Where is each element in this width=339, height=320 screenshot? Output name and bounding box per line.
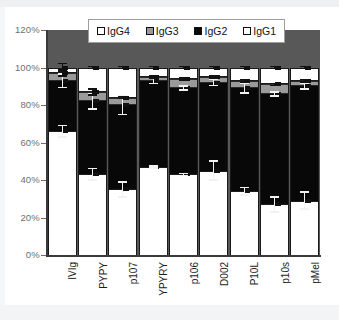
error-bar-marker <box>62 66 68 70</box>
y-axis-tick <box>41 68 46 69</box>
x-axis-label-p106: p106 <box>189 262 200 320</box>
error-bar-cap-bottom <box>300 88 309 90</box>
x-axis-label-p107: p107 <box>128 262 139 320</box>
error-bar-cap-bottom <box>240 68 249 70</box>
error-bar-marker <box>62 129 68 133</box>
error-bar-marker <box>93 172 99 176</box>
bar-segment-igg2 <box>109 105 136 189</box>
error-bar-stem <box>213 160 214 181</box>
bar-segment-igg2 <box>291 86 318 200</box>
error-bar-cap-bottom <box>270 85 279 87</box>
x-axis-label-text: pMel <box>310 262 321 320</box>
y-axis-tick <box>41 180 46 181</box>
error-bar-cap-bottom <box>88 94 97 96</box>
error-bar-cap-bottom <box>300 81 309 83</box>
x-axis-label-text: D002 <box>219 262 230 320</box>
legend-swatch-igg1 <box>243 27 251 35</box>
error-bar-cap-bottom <box>240 81 249 83</box>
error-bar-cap-bottom <box>300 208 309 210</box>
error-bar-cap-bottom <box>58 71 67 73</box>
error-bar-cap-top <box>58 125 67 127</box>
x-axis-label-text: P10L <box>249 262 260 320</box>
error-bar-cap-bottom <box>118 68 127 70</box>
error-bar-marker <box>123 103 129 107</box>
error-bar-cap-bottom <box>270 68 279 70</box>
y-axis-tick <box>41 218 46 219</box>
error-bar-cap-top <box>209 160 218 162</box>
x-axis-label-text: p107 <box>128 262 139 320</box>
error-bar-cap-top <box>209 79 218 81</box>
error-bar-cap-bottom <box>118 114 127 116</box>
y-axis-tick-label: 0% <box>0 249 40 260</box>
x-axis-label-p10l: P10L <box>249 262 260 320</box>
error-bar-cap-top <box>58 63 67 65</box>
y-axis-tick <box>41 30 46 31</box>
error-bar-cap-bottom <box>179 89 188 91</box>
x-axis-label-pmel: pMel <box>310 262 321 320</box>
x-axis-label-text: YPYRY <box>158 262 169 320</box>
y-axis-tick-label: 60% <box>0 137 40 148</box>
x-axis-label-text: p106 <box>189 262 200 320</box>
bar-p10l <box>230 68 259 256</box>
bar-segment-igg1 <box>109 189 136 255</box>
error-bar-marker <box>62 79 68 83</box>
error-bar-cap-bottom <box>209 179 218 181</box>
y-axis-tick-label: 100% <box>0 62 40 73</box>
error-bar-cap-top <box>88 88 97 90</box>
error-bar-cap-bottom <box>58 87 67 89</box>
legend-item-igg2[interactable]: IgG2 <box>194 25 227 37</box>
error-bar-cap-bottom <box>179 68 188 70</box>
legend-label: IgG1 <box>253 25 276 37</box>
x-axis-label-text: IVIg <box>67 262 78 320</box>
error-bar-cap-bottom <box>209 85 218 87</box>
error-bar-cap-top <box>179 85 188 87</box>
error-bar-cap-top <box>270 196 279 198</box>
error-bar-marker <box>275 202 281 206</box>
error-bar-cap-top <box>300 191 309 193</box>
error-bar-cap-bottom <box>149 167 158 169</box>
error-bar-cap-bottom <box>300 68 309 70</box>
bar-ivig <box>48 68 77 256</box>
error-bar-cap-top <box>240 83 249 85</box>
legend-label: IgG2 <box>204 25 227 37</box>
error-bar-cap-bottom <box>209 77 218 79</box>
error-bar-cap-top <box>118 181 127 183</box>
error-bar-cap-bottom <box>118 98 127 100</box>
y-axis-tick-label: 80% <box>0 99 40 110</box>
y-axis-tick-label: 40% <box>0 174 40 185</box>
x-axis-label-ivig: IVIg <box>67 262 78 320</box>
error-bar-cap-bottom <box>149 83 158 85</box>
error-bar-marker <box>93 99 99 103</box>
error-bar-cap-bottom <box>88 108 97 110</box>
error-bar-cap-bottom <box>58 75 67 77</box>
bar-ypyry <box>139 68 168 256</box>
y-axis-tick-label: 120% <box>0 24 40 35</box>
error-bar-cap-bottom <box>88 179 97 181</box>
x-axis-label-text: p10s <box>280 262 291 320</box>
legend-swatch-igg4 <box>97 27 105 35</box>
bar-segment-igg1 <box>231 191 258 255</box>
y-axis-tick <box>41 143 46 144</box>
error-bar-cap-bottom <box>209 68 218 70</box>
y-axis-tick-label: 20% <box>0 212 40 223</box>
error-bar-cap-bottom <box>88 68 97 70</box>
error-bar-stem <box>304 191 305 210</box>
error-bar-marker <box>244 189 250 193</box>
bar-segment-igg2 <box>79 101 106 174</box>
chart-legend: IgG4IgG3IgG2IgG1 <box>88 19 285 43</box>
error-bar-cap-bottom <box>58 136 67 138</box>
legend-label: IgG3 <box>156 25 179 37</box>
legend-item-igg3[interactable]: IgG3 <box>146 25 179 37</box>
legend-item-igg1[interactable]: IgG1 <box>243 25 276 37</box>
x-axis-label-text: PYPY <box>98 262 109 320</box>
legend-item-igg4[interactable]: IgG4 <box>97 25 130 37</box>
bar-segment-igg1 <box>79 174 106 255</box>
error-bar-cap-bottom <box>240 92 249 94</box>
bar-segment-igg4 <box>109 68 136 98</box>
y-axis-tick <box>41 255 46 256</box>
error-bar-cap-bottom <box>270 211 279 213</box>
stacked-bar-chart: 0%20%40%60%80%100%120% IVIgPYPYp107YPYRY… <box>0 0 339 320</box>
bar-pmel <box>290 68 319 256</box>
error-bar-cap-top <box>300 83 309 85</box>
error-bar-cap-bottom <box>240 194 249 196</box>
